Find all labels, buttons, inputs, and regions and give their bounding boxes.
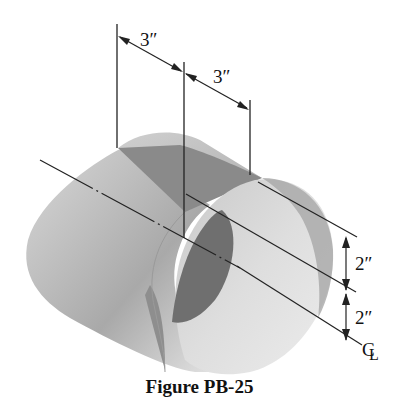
dimension-label-right-upper: 2″ <box>355 253 372 274</box>
dimension-label-right-lower: 2″ <box>355 307 372 328</box>
dimension-label-top-right: 3″ <box>213 66 230 87</box>
dimension-label-top-left: 3″ <box>140 29 157 50</box>
arrowhead-icon <box>342 236 350 248</box>
cylinder-figure: 3″ 3″ 2″ 2″ C L Figure PB-25 <box>0 0 399 404</box>
arrowhead-icon <box>237 101 249 110</box>
diagram-canvas: 3″ 3″ 2″ 2″ C L <box>0 0 399 404</box>
arrowhead-icon <box>342 293 350 305</box>
figure-caption: Figure PB-25 <box>0 376 399 398</box>
arrowhead-icon <box>185 73 197 82</box>
arrowhead-icon <box>342 329 350 341</box>
centerline-label-sub: L <box>369 346 379 363</box>
arrowhead-icon <box>118 36 130 45</box>
arrowhead-icon <box>171 63 183 72</box>
